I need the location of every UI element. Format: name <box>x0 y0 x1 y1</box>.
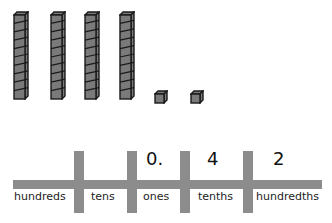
tenth-rod <box>84 11 100 100</box>
column-divider <box>180 151 190 213</box>
tenth-rod <box>50 11 66 100</box>
column-divider <box>243 151 253 213</box>
column-divider <box>74 151 84 213</box>
label-tens: tens <box>91 190 115 203</box>
hundredths-digit: 2 <box>273 148 284 169</box>
label-hundreds: hundreds <box>14 190 66 203</box>
ones-digit: 0. <box>146 148 163 169</box>
tenth-rod <box>13 11 29 100</box>
label-tenths: tenths <box>198 190 233 203</box>
column-divider <box>127 151 137 213</box>
hundredth-cube <box>190 90 204 104</box>
hundredth-cube <box>154 90 168 104</box>
label-hundredths: hundredths <box>256 190 319 203</box>
horizontal-divider <box>13 180 322 189</box>
tenths-digit: 4 <box>207 148 218 169</box>
label-ones: ones <box>143 190 169 203</box>
tenth-rod <box>119 11 135 100</box>
place-value-diagram: 0. 4 2 hundreds tens ones tenths hundred… <box>0 0 332 223</box>
